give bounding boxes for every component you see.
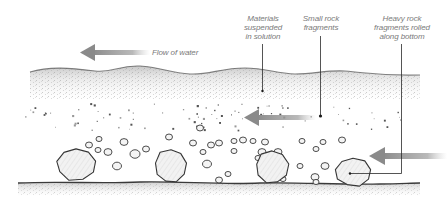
grit-dot — [144, 128, 146, 130]
pebble — [313, 146, 319, 151]
grit-dot — [172, 128, 174, 130]
grit-dot — [189, 118, 191, 120]
pebble — [299, 138, 305, 143]
pebble — [231, 148, 237, 153]
grit-dot — [371, 112, 372, 113]
grit-dot — [162, 113, 163, 114]
grit-dot — [50, 113, 51, 114]
pebble — [231, 138, 237, 143]
pebble-layer — [86, 125, 346, 185]
pebble — [208, 142, 215, 148]
grit-dot — [133, 119, 134, 120]
pebble — [113, 162, 122, 170]
pebble — [262, 139, 269, 145]
boulder — [57, 149, 96, 180]
grit-dot — [103, 117, 104, 118]
grit-dot — [98, 111, 99, 112]
grit-dot — [371, 129, 372, 130]
pebble — [321, 163, 329, 170]
pebble — [297, 163, 303, 168]
grit-dot — [25, 116, 26, 117]
grit-dot — [263, 113, 264, 114]
grit-dot — [78, 109, 79, 110]
grit-dot — [216, 118, 217, 119]
grit-dot — [197, 105, 199, 107]
grit-dot — [44, 114, 46, 116]
grit-dot — [271, 113, 272, 114]
grit-dot — [118, 127, 120, 128]
grit-dot — [203, 118, 205, 120]
grit-dot — [305, 120, 306, 121]
grit-dot — [196, 113, 198, 115]
pebble — [200, 149, 206, 154]
grit-dot — [221, 115, 223, 117]
grit-dot — [74, 124, 76, 126]
grit-dot — [287, 107, 289, 109]
grit-dot — [77, 123, 79, 125]
grit-dot — [235, 125, 237, 127]
grit-dot — [198, 117, 199, 118]
pebble — [216, 140, 223, 146]
grit-dot — [257, 107, 259, 109]
grit-dot — [55, 127, 56, 128]
grit-dot — [90, 103, 92, 105]
grit-dot — [97, 121, 98, 122]
grit-dot — [183, 109, 184, 110]
pebble — [339, 137, 346, 143]
grit-dot — [384, 120, 386, 122]
grit-dot — [72, 115, 74, 117]
grit-dot — [75, 123, 77, 125]
pebble — [104, 149, 112, 156]
grit-dot — [282, 107, 284, 109]
boulder — [335, 158, 370, 186]
grit-dot — [120, 117, 122, 119]
grit-dot — [267, 106, 268, 107]
grit-dot — [218, 104, 219, 105]
pebble — [203, 160, 212, 168]
pebble — [250, 138, 256, 143]
boulder — [156, 150, 187, 182]
grit-dot — [268, 105, 269, 106]
grit-dot — [231, 114, 232, 115]
suspended-materials-label: Materials suspended in solution — [238, 14, 288, 41]
small-fragment-layer — [25, 103, 401, 131]
grit-dot — [94, 104, 96, 106]
flow-arrow-middle — [244, 109, 316, 126]
grit-dot — [241, 104, 242, 105]
flow-arrow-top — [80, 44, 150, 61]
grit-dot — [398, 112, 399, 113]
grit-dot — [92, 130, 93, 131]
grit-dot — [214, 110, 215, 111]
pebble — [320, 139, 326, 144]
grit-dot — [128, 109, 130, 111]
grit-dot — [387, 126, 389, 128]
pebble — [166, 134, 173, 140]
pebble — [313, 179, 319, 184]
grit-dot — [211, 114, 212, 115]
pebble — [240, 137, 247, 143]
grit-dot — [338, 114, 339, 115]
grit-dot — [281, 105, 283, 107]
grit-dot — [206, 107, 208, 109]
grit-dot — [283, 127, 284, 128]
grit-dot — [33, 111, 35, 113]
grit-dot — [234, 111, 235, 112]
sediment-transport-diagram: Flow of water Materials suspended in sol… — [0, 0, 447, 205]
pebble — [120, 139, 128, 146]
pebble — [190, 140, 197, 146]
grit-dot — [238, 130, 240, 132]
grit-dot — [45, 113, 46, 114]
grit-dot — [130, 124, 132, 126]
pebble — [197, 125, 204, 131]
grit-dot — [349, 108, 350, 109]
pebble — [143, 146, 150, 152]
flow-of-water-label: Flow of water — [152, 48, 198, 57]
grit-dot — [219, 122, 221, 124]
grit-dot — [242, 118, 243, 119]
grit-dot — [201, 123, 202, 124]
pebble — [96, 136, 102, 141]
flow-arrow-bottom — [369, 147, 447, 165]
grit-dot — [30, 110, 31, 111]
grit-dot — [133, 113, 134, 114]
grit-dot — [109, 114, 111, 116]
